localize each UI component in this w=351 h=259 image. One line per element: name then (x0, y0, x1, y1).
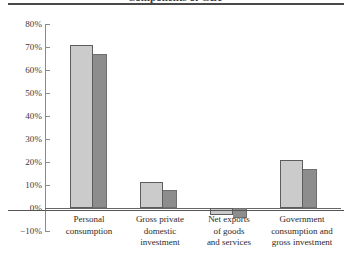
bar-gross-private-domestic-investment-series2 (163, 190, 177, 208)
bar-personal-consumption-series1 (70, 45, 93, 208)
y-tick-label-5: 30% (0, 135, 42, 144)
x-label-line: gross investment (253, 237, 351, 249)
chart-figure: Components of GDP 80% 70% 60% 50% 40% 30… (0, 0, 351, 259)
bar-personal-consumption-series2 (93, 54, 107, 208)
bottom-rule (8, 210, 344, 211)
zero-baseline (45, 208, 341, 209)
y-tick-3 (45, 93, 50, 94)
y-tick-6 (45, 162, 50, 163)
y-tick-1 (45, 47, 50, 48)
bar-government-series1 (280, 160, 303, 208)
y-tick-label-6: 20% (0, 158, 42, 167)
y-tick-label-0: 80% (0, 20, 42, 29)
y-tick-4 (45, 116, 50, 117)
bar-gross-private-domestic-investment-series1 (140, 182, 163, 208)
y-tick-5 (45, 139, 50, 140)
y-tick-7 (45, 185, 50, 186)
y-tick-2 (45, 70, 50, 71)
bar-government-series2 (303, 169, 317, 208)
y-tick-label-1: 70% (0, 43, 42, 52)
x-label-line: Government (253, 214, 351, 226)
x-label-line: consumption and (253, 226, 351, 238)
y-tick-0 (45, 24, 50, 25)
y-tick-label-8: 0% (0, 204, 42, 213)
plot-area: 80% 70% 60% 50% 40% 30% 20% 10% 0% −10% (0, 0, 351, 259)
y-tick-label-4: 40% (0, 112, 42, 121)
y-tick-label-9: −10% (0, 227, 42, 236)
y-tick-label-3: 50% (0, 89, 42, 98)
x-category-label-government: Government consumption and gross investm… (253, 214, 351, 249)
y-tick-label-7: 10% (0, 181, 42, 190)
y-tick-label-2: 60% (0, 66, 42, 75)
y-axis-line (45, 24, 46, 231)
